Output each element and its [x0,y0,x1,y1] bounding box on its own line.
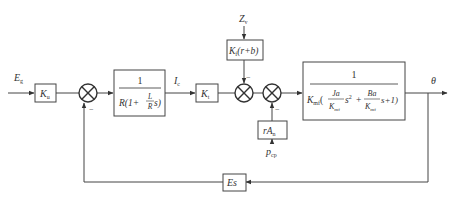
sum2-minus-sign: − [246,73,251,82]
svg-text:1: 1 [138,75,143,86]
svg-text:1: 1 [352,69,357,80]
input-label-eg: Eg [13,72,23,84]
svg-text:Ba: Ba [368,89,377,98]
disturbance-label-zv: Zv [239,13,248,25]
summing-junction-1 [79,84,97,102]
sum1-minus-sign: − [89,105,94,114]
svg-text:s): s) [154,98,161,109]
es-block-label: Es [226,177,237,188]
signal-label-ic: Ic [173,75,180,87]
sum3-minus-sign: − [275,105,280,114]
svg-text:R: R [147,102,153,111]
kf-block-label: Kf(r+b) [228,46,259,57]
output-label-theta: θ [431,75,436,86]
svg-text:Ja: Ja [332,89,340,98]
summing-junction-2 [235,84,253,102]
svg-text:s+1): s+1) [381,95,398,105]
svg-text:R(1+: R(1+ [118,98,139,109]
svg-text:L: L [147,92,152,101]
disturbance-label-pcp: pcp [265,146,277,158]
block-diagram: − − − Eg Ic Zv pcp θ Ku 1 R(1+ L R s) Kt… [0,0,454,202]
svg-text:+: + [356,95,361,105]
summing-junction-3 [263,84,281,102]
